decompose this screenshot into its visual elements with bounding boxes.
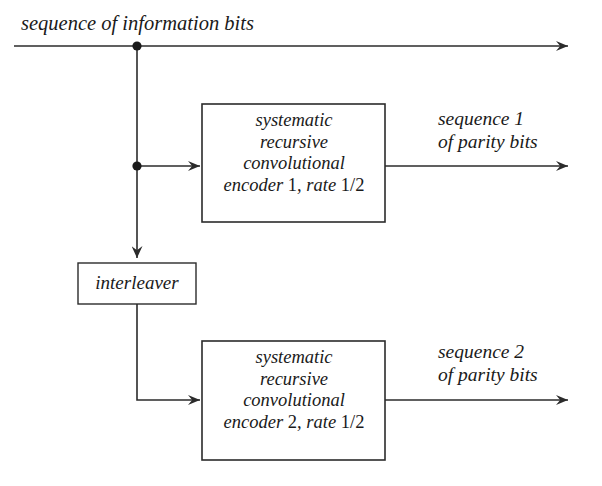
encoder2-output-label-line2: of parity bits <box>438 363 538 386</box>
junction-dot-top <box>132 41 141 50</box>
encoder1-label-prefix: encoder <box>224 175 284 195</box>
encoder1-output-label: sequence 1 of parity bits <box>438 107 538 153</box>
encoder2-output-label: sequence 2 of parity bits <box>438 340 538 386</box>
encoder2-input-line <box>137 304 200 400</box>
encoder1-label-line3: convolutional <box>203 153 385 175</box>
encoder1-label-line2: recursive <box>203 132 385 154</box>
encoder2-label-line3: convolutional <box>203 390 385 412</box>
interleaver-label: interleaver <box>78 272 196 294</box>
junction-dot-encoder1 <box>132 161 141 170</box>
systematic-sequence-label: sequence of information bits <box>21 11 254 35</box>
encoder2-label-line2: recursive <box>203 369 385 391</box>
encoder1-output-label-line1: sequence 1 <box>438 107 538 130</box>
encoder1-label-line1: systematic <box>203 110 385 132</box>
encoder1-label-suffix: , rate <box>297 175 336 195</box>
encoder1-label-rate: 1/2 <box>341 175 365 195</box>
encoder2-label: systematic recursive convolutional encod… <box>203 347 385 434</box>
encoder2-output-label-line1: sequence 2 <box>438 340 538 363</box>
encoder1-output-label-line2: of parity bits <box>438 130 538 153</box>
encoder2-label-suffix: , rate <box>297 412 336 432</box>
encoder1-label-line4: encoder 1, rate 1/2 <box>203 175 385 197</box>
encoder2-label-line4: encoder 2, rate 1/2 <box>203 412 385 434</box>
encoder2-label-rate: 1/2 <box>341 412 365 432</box>
encoder2-label-line1: systematic <box>203 347 385 369</box>
encoder2-label-prefix: encoder <box>224 412 284 432</box>
encoder1-label: systematic recursive convolutional encod… <box>203 110 385 197</box>
turbo-encoder-diagram: sequence of information bits sequence 1 … <box>0 0 602 486</box>
